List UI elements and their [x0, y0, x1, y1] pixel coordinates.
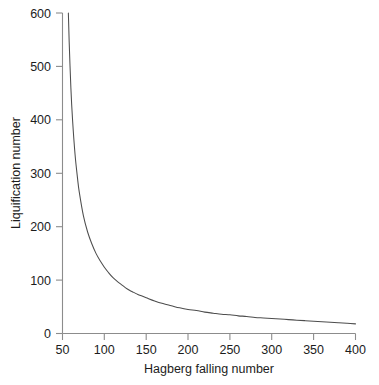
y-tick-label-600: 600: [30, 7, 51, 21]
x-axis-title: Hagberg falling number: [144, 362, 274, 376]
y-tick-label-400: 400: [30, 113, 51, 127]
x-tick-label-250: 250: [219, 343, 240, 357]
y-tick-label-100: 100: [30, 274, 51, 288]
x-tick-label-200: 200: [178, 343, 199, 357]
y-tick-label-200: 200: [30, 220, 51, 234]
chart-figure: 600 500 400 300 200 100 0 50 100 150 200…: [0, 0, 379, 385]
y-tick-label-0: 0: [44, 327, 51, 341]
y-axis-title: Liquification number: [9, 117, 23, 229]
x-tick-label-100: 100: [94, 343, 115, 357]
x-tick-label-400: 400: [345, 343, 366, 357]
chart-background: [0, 0, 379, 385]
x-tick-label-300: 300: [261, 343, 282, 357]
x-tick-label-150: 150: [136, 343, 157, 357]
x-tick-label-50: 50: [56, 343, 70, 357]
x-tick-label-350: 350: [303, 343, 324, 357]
liquification-vs-hagberg-line-chart: 600 500 400 300 200 100 0 50 100 150 200…: [0, 0, 379, 385]
y-tick-label-300: 300: [30, 167, 51, 181]
y-tick-label-500: 500: [30, 60, 51, 74]
